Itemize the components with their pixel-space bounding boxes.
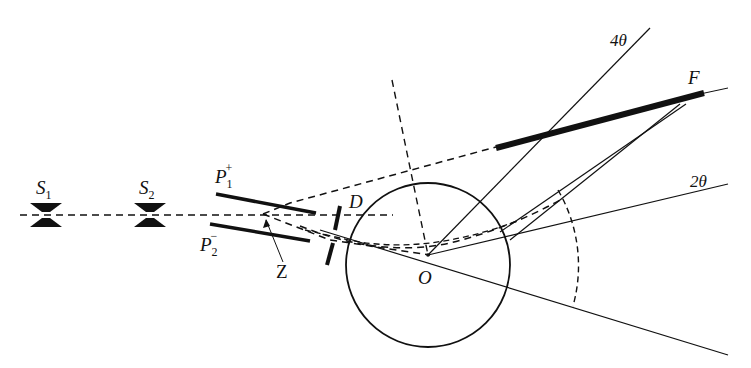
detector-f — [496, 93, 704, 148]
label-p2: P2− — [200, 234, 217, 258]
plate-p1 — [216, 194, 316, 213]
beam-lower-dashed — [263, 214, 430, 255]
line-incident — [320, 230, 728, 355]
normal-dashed — [392, 80, 428, 255]
label-z: Z — [276, 262, 288, 281]
detector-f-extension — [700, 88, 728, 94]
label-o: O — [418, 268, 432, 287]
diagram-canvas — [0, 0, 751, 368]
scattering-circle — [346, 183, 510, 347]
slit-s2 — [134, 203, 166, 227]
label-4theta: 4θ — [610, 32, 627, 49]
label-f: F — [688, 68, 700, 87]
label-s2: S2 — [139, 178, 155, 201]
label-2theta: 2θ — [690, 173, 707, 190]
label-s1: S1 — [36, 178, 52, 201]
beam-upper-dashed — [263, 147, 496, 214]
label-p1: P1+ — [215, 166, 232, 190]
label-d: D — [349, 192, 363, 211]
angle-arc-dashed — [558, 190, 579, 306]
stop-d-lower — [327, 243, 333, 265]
line-2theta — [428, 184, 728, 255]
line-4theta — [428, 28, 650, 255]
point-o — [426, 253, 430, 257]
plate-p2 — [210, 224, 310, 241]
stop-d-upper — [335, 206, 340, 230]
